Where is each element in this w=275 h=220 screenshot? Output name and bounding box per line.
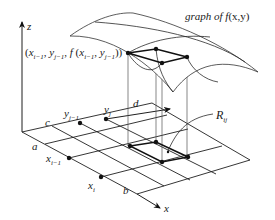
bound-a-label: a [32, 140, 38, 152]
grid-line-y-cur [106, 119, 216, 174]
x-axis [137, 194, 160, 208]
y-cur-label: yj [103, 103, 111, 118]
diagram-canvas: z x graph of f(x,y) (xi−1, yj−1, f (xi−1… [0, 0, 275, 220]
region-rij-label: Rij [215, 108, 227, 124]
riemann-sum-diagram: z x graph of f(x,y) (xi−1, yj−1, f (xi−1… [0, 0, 275, 220]
bound-d-label: d [133, 97, 139, 109]
y-axis [106, 109, 170, 119]
corner-point-label: (xi−1, yj−1, f (xi−1, yj−1)) [25, 46, 123, 61]
grid-line-x-prev [69, 129, 188, 158]
y-prev-label: yj−1 [63, 107, 79, 122]
bound-c-label: c [45, 116, 50, 128]
graph-title: graph of f(x,y) [185, 10, 250, 23]
bound-b-label: b [123, 184, 129, 196]
x-prev-label: xi−1 [45, 152, 61, 167]
x-cur-label: xi [87, 179, 95, 194]
z-axis-label: z [26, 20, 32, 32]
x-axis-label: x [163, 202, 169, 214]
